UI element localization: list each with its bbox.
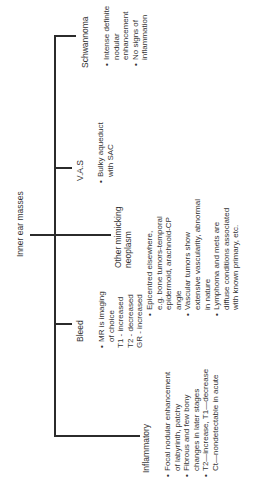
node-bullets-other-mimicking-neoplasm: Epicentred elsewhere, e.g. bone tumors-t… <box>145 199 241 316</box>
node-bullets-schwannoma: Intense definite nodular enhancement No … <box>102 6 150 66</box>
bullet-item: Lymphoma and mets are diffuse conditions… <box>212 199 241 316</box>
branch-line-bleed <box>54 323 72 325</box>
node-label-schwannoma: Schwannoma <box>81 16 91 68</box>
branch-line-vas <box>54 167 72 169</box>
bullet-item: T2—increase, T1—decrease Ct—nondetectabl… <box>201 369 220 477</box>
root-connector-line <box>30 234 111 236</box>
bullet-item: Bulky aqueduct with SAC <box>96 122 115 183</box>
bullet-item: Vascular tumors show extensive vasculari… <box>183 199 212 316</box>
bullet-item: Epicentred elsewhere, e.g. bone tumors-t… <box>145 199 183 316</box>
node-label-bleed: Bleed <box>76 320 86 342</box>
node-bullets-bleed: MR is imaging of choice T1 - increased T… <box>97 291 145 348</box>
branch-line-inflammatory <box>54 435 140 437</box>
bullet-item: MR is imaging of choice T1 - increased T… <box>97 291 145 348</box>
bullet-item: Fibrous and few bony changes in later st… <box>182 369 201 477</box>
node-label-other-mimicking-neoplasm: Other mimicking neoplasm <box>114 207 133 268</box>
bullet-item: Focal nodular enhancement of labyrinth, … <box>163 369 182 477</box>
node-label-inflammatory: Inflammatory <box>142 424 152 473</box>
node-bullets-inflammatory: Focal nodular enhancement of labyrinth, … <box>163 369 221 477</box>
node-label-vas: V.A.S <box>76 160 86 181</box>
trunk-line <box>54 35 56 437</box>
node-bullets-vas: Bulky aqueduct with SAC <box>96 122 115 183</box>
bullet-item: Intense definite nodular enhancement <box>102 6 131 66</box>
bullet-item: No signs of inflammation <box>131 6 150 66</box>
branch-line-schwannoma <box>54 35 76 37</box>
root-label: Inner ear masses <box>16 191 26 257</box>
